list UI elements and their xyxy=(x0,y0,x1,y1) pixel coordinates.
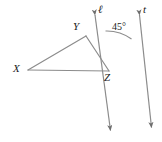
segment-YZ xyxy=(86,36,109,71)
line-t-stroke xyxy=(140,15,152,128)
angle-arc-45 xyxy=(106,31,132,39)
line-t xyxy=(140,15,152,128)
vertex-label-y: Y xyxy=(73,21,79,32)
segment-XY xyxy=(28,36,86,70)
line-label-l: ℓ xyxy=(98,4,103,15)
geometry-canvas xyxy=(0,0,162,142)
segment-XZ xyxy=(28,70,109,71)
vertex-label-x: X xyxy=(13,63,20,74)
triangle-XYZ xyxy=(28,36,109,71)
line-label-t: t xyxy=(143,4,146,15)
angle-label-45: 45° xyxy=(112,22,126,32)
geometry-figure: X Y Z ℓ t 45° xyxy=(0,0,162,142)
vertex-label-z: Z xyxy=(104,72,110,83)
